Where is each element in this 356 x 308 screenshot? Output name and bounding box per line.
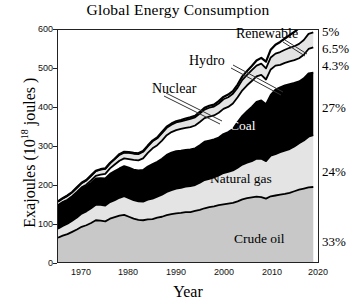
plot-area bbox=[57, 29, 319, 263]
x-tick-label-2010: 2010 bbox=[252, 267, 292, 277]
y-tick-label-100: 100 bbox=[19, 219, 53, 229]
percent-label-natural-gas: 24% bbox=[322, 164, 346, 180]
series-label-hydro: Hydro bbox=[189, 53, 225, 69]
percent-label-renewable: 5% bbox=[322, 24, 339, 40]
y-tick-label-200: 200 bbox=[19, 180, 53, 190]
series-label-renewable: Renewable bbox=[236, 26, 298, 42]
x-tick-label-1990: 1990 bbox=[156, 267, 196, 277]
x-axis-title: Year bbox=[57, 283, 319, 301]
series-label-coal: Coal bbox=[230, 118, 256, 134]
y-tick-label-500: 500 bbox=[19, 63, 53, 73]
y-tick-label-0: 0 bbox=[19, 258, 53, 268]
percent-label-hydro: 6.5% bbox=[322, 41, 349, 57]
y-tick-mark-0 bbox=[53, 263, 57, 264]
series-label-nuclear: Nuclear bbox=[152, 81, 196, 97]
x-tick-label-2000: 2000 bbox=[204, 267, 244, 277]
stacked-area-svg bbox=[58, 30, 318, 262]
x-tick-label-1970: 1970 bbox=[61, 267, 101, 277]
series-label-crude-oil: Crude oil bbox=[234, 231, 285, 247]
y-axis-title-exponent: 18 bbox=[19, 129, 30, 139]
x-tick-label-1980: 1980 bbox=[108, 267, 148, 277]
percent-label-coal: 27% bbox=[322, 100, 346, 116]
y-tick-label-600: 600 bbox=[19, 24, 53, 34]
chart-title: Global Energy Consumption bbox=[0, 1, 356, 19]
percent-label-crude-oil: 33% bbox=[322, 234, 346, 250]
chart-figure: Global Energy Consumption Exajoules (101… bbox=[0, 0, 356, 308]
x-tick-label-2020: 2020 bbox=[298, 267, 338, 277]
y-tick-label-400: 400 bbox=[19, 102, 53, 112]
percent-label-nuclear: 4.3% bbox=[322, 58, 349, 74]
series-label-natural-gas: Natural gas bbox=[210, 171, 272, 187]
y-tick-label-300: 300 bbox=[19, 141, 53, 151]
